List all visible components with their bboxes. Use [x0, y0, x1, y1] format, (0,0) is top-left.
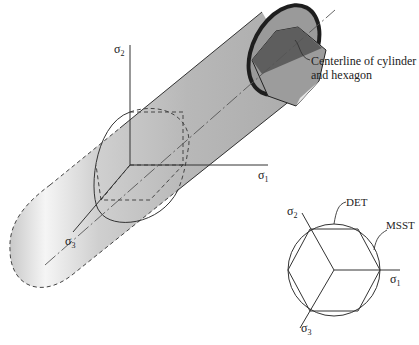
- inset-sigma1-label: σ1: [390, 272, 400, 288]
- centerline-annotation-line2: and hexagon: [311, 68, 372, 82]
- inset-sigma3-label: σ3: [301, 321, 311, 337]
- yield-surface-diagram: σ2 σ1 σ3 Centerline of cylinder and hexa…: [0, 0, 419, 345]
- msst-label: MSST: [386, 219, 415, 231]
- det-label: DET: [346, 196, 368, 208]
- centerline-annotation-line1: Centerline of cylinder: [311, 54, 416, 68]
- sigma2-label: σ2: [114, 42, 124, 58]
- inset-diagram: DET MSST σ2 σ1 σ3: [287, 196, 415, 337]
- inset-sigma2-label: σ2: [287, 204, 297, 220]
- sigma1-label: σ1: [258, 168, 268, 184]
